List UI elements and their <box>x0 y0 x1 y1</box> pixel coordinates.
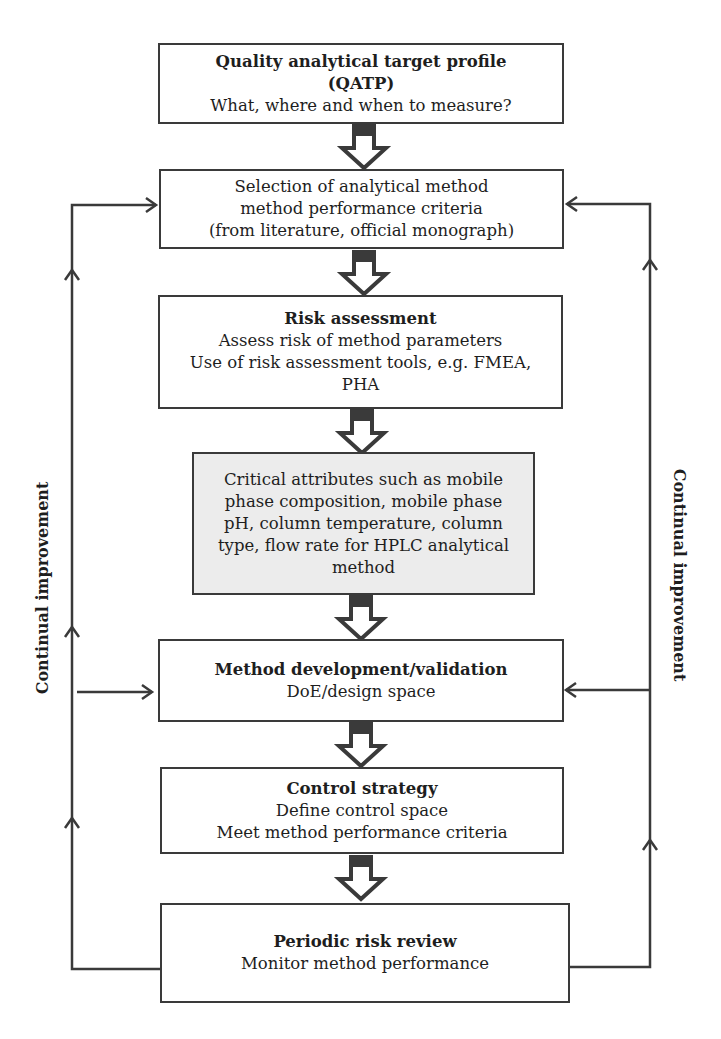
block-arrow-icon <box>342 250 386 294</box>
critical-line-3: pH, column temperature, column <box>224 513 503 535</box>
critical-line-5: method <box>332 557 395 579</box>
block-arrow-icon <box>342 124 386 168</box>
selection-box: Selection of analytical method method pe… <box>159 169 564 249</box>
control-strategy-box: Control strategy Define control space Me… <box>160 767 564 854</box>
block-arrow-icon <box>339 855 383 899</box>
selection-line-2: method performance criteria <box>240 198 483 220</box>
method-development-title: Method development/validation <box>214 659 507 681</box>
block-arrow-icon <box>340 409 384 453</box>
periodic-review-title: Periodic risk review <box>273 931 456 953</box>
periodic-review-box: Periodic risk review Monitor method perf… <box>160 903 570 1003</box>
critical-attributes-box: Critical attributes such as mobile phase… <box>192 452 535 595</box>
control-strategy-title: Control strategy <box>286 778 437 800</box>
periodic-line-1: Monitor method performance <box>241 953 489 975</box>
critical-line-4: type, flow rate for HPLC analytical <box>218 535 509 557</box>
right-continual-improvement-label: Continual improvement <box>670 469 689 682</box>
method-line-1: DoE/design space <box>286 681 435 703</box>
critical-line-2: phase composition, mobile phase <box>225 491 503 513</box>
block-arrow-icon <box>339 722 383 766</box>
block-arrow-icon <box>339 595 383 639</box>
selection-line-1: Selection of analytical method <box>235 176 489 198</box>
qatp-abbrev: (QATP) <box>328 73 395 95</box>
qatp-question: What, where and when to measure? <box>210 95 511 117</box>
risk-assessment-title: Risk assessment <box>284 308 436 330</box>
critical-line-1: Critical attributes such as mobile <box>224 469 503 491</box>
risk-line-3: PHA <box>342 374 379 396</box>
left-feedback-loop <box>65 198 160 969</box>
control-line-1: Define control space <box>276 800 448 822</box>
selection-line-3: (from literature, official monograph) <box>209 220 514 242</box>
right-feedback-loop <box>566 197 657 967</box>
method-development-box: Method development/validation DoE/design… <box>158 639 564 722</box>
risk-line-2: Use of risk assessment tools, e.g. FMEA, <box>190 352 531 374</box>
control-line-2: Meet method performance criteria <box>216 822 507 844</box>
risk-assessment-box: Risk assessment Assess risk of method pa… <box>158 295 563 409</box>
left-continual-improvement-label: Continual improvement <box>33 482 52 695</box>
qatp-title: Quality analytical target profile <box>216 51 507 73</box>
risk-line-1: Assess risk of method parameters <box>219 330 503 352</box>
qatp-box: Quality analytical target profile (QATP)… <box>158 43 564 124</box>
